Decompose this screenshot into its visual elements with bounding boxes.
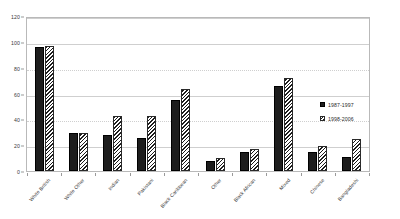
x-tick-mark (61, 173, 62, 176)
legend-label: 1998-2006 (328, 116, 354, 122)
bar-group (27, 18, 61, 171)
legend-item-series-b: 1998-2006 (320, 115, 386, 122)
y-tick-mark (21, 94, 24, 95)
legend-swatch-icon (320, 116, 325, 121)
y-tick-mark (21, 68, 24, 69)
x-tick-label: White British (28, 177, 52, 202)
legend-label: 1987-1997 (328, 102, 354, 108)
bar-series-a (69, 133, 78, 171)
legend-swatch-icon (320, 102, 325, 107)
x-tick-label: Black African (233, 177, 257, 203)
x-tick-label: White Other (63, 177, 86, 201)
bar-series-a (35, 47, 44, 171)
bar-series-b (352, 139, 361, 171)
x-tick-mark (95, 173, 96, 176)
x-tick-mark (266, 173, 267, 176)
bar-group (61, 18, 95, 171)
bar-group (198, 18, 232, 171)
x-tick-mark (164, 173, 165, 176)
x-tick-mark (335, 173, 336, 176)
bar-group (232, 18, 266, 171)
bar-series-b (284, 78, 293, 171)
bar-series-a (342, 157, 351, 171)
y-tick-mark (21, 172, 24, 173)
bar-series-a (103, 135, 112, 171)
bar-series-b (147, 116, 156, 171)
x-tick-label: Chinese (308, 177, 325, 195)
x-tick-mark (369, 173, 370, 176)
bar-series-a (171, 100, 180, 171)
bar-group (301, 18, 335, 171)
bar-group (266, 18, 300, 171)
bar-series-a (206, 161, 215, 171)
bar-series-b (250, 149, 259, 171)
bar-chart: 120 100 80 60 40 20 0 White BritishWhite… (0, 0, 400, 219)
legend-item-series-a: 1987-1997 (320, 101, 386, 108)
bar-series-b (318, 146, 327, 172)
y-axis: 120 100 80 60 40 20 0 (0, 17, 24, 172)
x-tick-label: Indian (106, 177, 120, 191)
bar-series-b (113, 116, 122, 171)
bars-layer (27, 18, 369, 171)
bar-series-a (308, 152, 317, 171)
y-tick-label: 60 (14, 92, 20, 98)
y-tick-mark (21, 120, 24, 121)
x-tick-mark (27, 173, 28, 176)
x-tick-mark (232, 173, 233, 176)
y-tick-mark (21, 146, 24, 147)
bar-series-b (45, 46, 54, 171)
bar-series-b (79, 133, 88, 171)
bar-group (130, 18, 164, 171)
x-tick-mark (130, 173, 131, 176)
x-tick-label: Mixed (277, 177, 291, 191)
y-tick-label: 40 (14, 117, 20, 123)
y-tick-label: 20 (14, 143, 20, 149)
x-tick-label: Other (210, 177, 223, 191)
bar-series-a (137, 138, 146, 171)
x-axis: White BritishWhite OtherIndianPakistaniB… (27, 173, 369, 219)
bar-series-a (274, 86, 283, 171)
chart-legend: 1987-1997 1998-2006 (320, 101, 386, 129)
y-tick-label: 80 (14, 66, 20, 72)
y-tick-label: 120 (11, 14, 20, 20)
bar-series-b (216, 158, 225, 171)
bar-group (335, 18, 369, 171)
bar-series-b (181, 89, 190, 171)
y-tick-label: 100 (11, 40, 20, 46)
x-tick-label: Bangladeshi (336, 177, 359, 202)
x-tick-label: Pakistani (136, 177, 154, 196)
x-tick-mark (301, 173, 302, 176)
y-tick-label: 0 (17, 169, 20, 175)
bar-group (164, 18, 198, 171)
x-tick-mark (198, 173, 199, 176)
x-tick-label: Black Caribbean (159, 177, 189, 209)
bar-group (95, 18, 129, 171)
bar-series-a (240, 152, 249, 171)
y-tick-mark (21, 42, 24, 43)
y-tick-mark (21, 17, 24, 18)
